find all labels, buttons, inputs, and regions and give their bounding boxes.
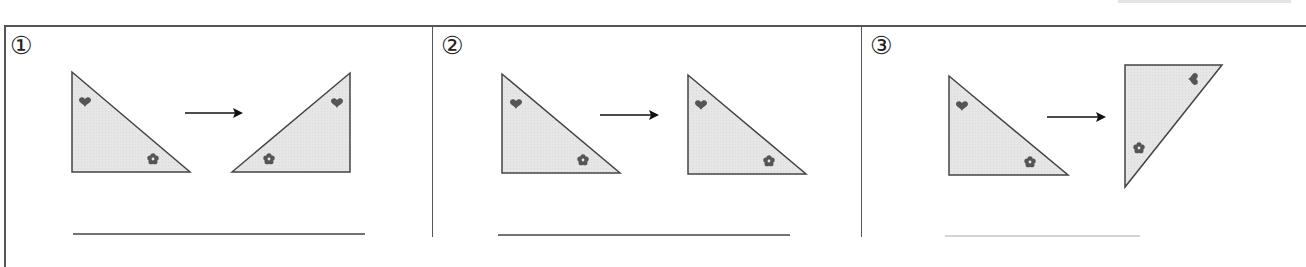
panel-1 — [72, 72, 365, 234]
transformed-triangle — [232, 73, 350, 172]
transformed-triangle — [1125, 65, 1222, 187]
transformed-triangle — [688, 75, 806, 174]
panel-3 — [945, 65, 1222, 236]
original-triangle — [949, 76, 1068, 175]
panel-2 — [498, 74, 806, 235]
original-triangle — [72, 72, 190, 172]
original-triangle — [502, 74, 620, 173]
